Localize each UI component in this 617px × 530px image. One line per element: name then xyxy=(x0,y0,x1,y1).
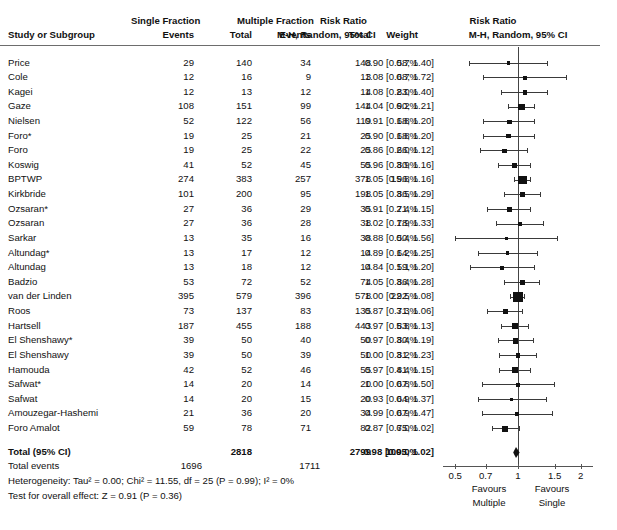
plot-header-title: Risk Ratio xyxy=(470,16,517,26)
study-label: Foro Amalot xyxy=(8,423,60,433)
confidence-interval-cap-left xyxy=(496,221,497,226)
study-label: Ozsaran* xyxy=(8,204,48,214)
risk-ratio-value: 0.97 [0.81, 1.15] xyxy=(315,365,434,375)
events-single-value: 19 xyxy=(134,145,194,155)
events-multiple-value: 16 xyxy=(251,233,311,243)
x-axis-tick xyxy=(486,464,487,469)
risk-ratio-value: 1.00 [0.92, 1.08] xyxy=(315,291,434,301)
confidence-interval-cap-left xyxy=(470,265,471,270)
total-single-value: 25 xyxy=(192,145,252,155)
confidence-interval-cap-right xyxy=(540,192,541,197)
events-single-value: 19 xyxy=(134,131,194,141)
study-label: El Shenshawy* xyxy=(8,335,73,345)
events-multiple-value: 14 xyxy=(251,379,311,389)
summary-diamond xyxy=(496,446,536,459)
confidence-interval-cap-right xyxy=(539,280,540,285)
x-axis-tick xyxy=(455,464,456,469)
effect-estimate-marker xyxy=(502,149,506,153)
events-multiple-value: 9 xyxy=(251,72,311,82)
confidence-interval-cap-left xyxy=(487,207,488,212)
total-single-value: 36 xyxy=(192,204,252,214)
risk-ratio-value: 1.02 [0.78, 1.33] xyxy=(315,218,434,228)
x-axis-tick xyxy=(581,464,582,469)
total-single-value: 18 xyxy=(192,262,252,272)
total-single-value: 35 xyxy=(192,233,252,243)
effect-estimate-marker xyxy=(523,90,527,94)
events-single-value: 13 xyxy=(134,248,194,258)
header-group-single: Single Fraction xyxy=(131,16,200,26)
confidence-interval-cap-left xyxy=(499,368,500,373)
confidence-interval-cap-right xyxy=(528,324,529,329)
study-label: Cole xyxy=(8,72,28,82)
risk-ratio-value: 0.99 [0.67, 1.47] xyxy=(315,408,434,418)
events-single-value: 29 xyxy=(134,58,194,68)
confidence-interval-cap-left xyxy=(482,411,483,416)
total-single-value: 52 xyxy=(192,365,252,375)
events-multiple-value: 257 xyxy=(251,174,311,184)
risk-ratio-value: 0.87 [0.71, 1.06] xyxy=(315,306,434,316)
study-label: Roos xyxy=(8,306,30,316)
favours-single-line1: Favours xyxy=(535,484,570,494)
favours-multiple-line1: Favours xyxy=(472,484,507,494)
events-multiple-value: 34 xyxy=(251,58,311,68)
confidence-interval-cap-left xyxy=(483,134,484,139)
effect-estimate-marker xyxy=(507,120,511,124)
totals-label: Total (95% CI) xyxy=(8,447,71,457)
risk-ratio-value: 1.05 [0.86, 1.28] xyxy=(315,277,434,287)
x-axis-tick-label: 1 xyxy=(515,471,520,481)
events-multiple-value: 20 xyxy=(251,408,311,418)
forest-plot-figure: Study or SubgroupSingle FractionMultiple… xyxy=(0,0,617,530)
total-single-value: 50 xyxy=(192,335,252,345)
total-events-label: Total events xyxy=(8,461,59,471)
risk-ratio-value: 0.91 [0.68, 1.20] xyxy=(315,116,434,126)
confidence-interval-cap-left xyxy=(510,294,511,299)
x-axis-tick-label: 1.5 xyxy=(548,471,561,481)
confidence-interval-cap-right xyxy=(554,382,555,387)
study-label: Foro xyxy=(8,145,28,155)
events-multiple-value: 28 xyxy=(251,218,311,228)
events-multiple-value: 396 xyxy=(251,291,311,301)
confidence-interval-cap-right xyxy=(534,104,535,109)
confidence-interval-cap-left xyxy=(480,148,481,153)
risk-ratio-value: 1.00 [0.67, 1.50] xyxy=(315,379,434,389)
total-single-value: 137 xyxy=(192,306,252,316)
header-group-multiple: Multiple Fraction xyxy=(237,16,314,26)
events-single-value: 59 xyxy=(134,423,194,433)
study-label: Sarkar xyxy=(8,233,36,243)
effect-estimate-marker xyxy=(512,323,518,329)
events-single-value: 12 xyxy=(134,87,194,97)
risk-ratio-value: 0.84 [0.59, 1.20] xyxy=(315,262,434,272)
effect-estimate-marker xyxy=(506,134,510,138)
confidence-interval-cap-right xyxy=(530,163,531,168)
confidence-interval-cap-left xyxy=(469,61,470,66)
confidence-interval-cap-right xyxy=(547,90,548,95)
confidence-interval-cap-right xyxy=(524,294,525,299)
total-single-value: 50 xyxy=(192,350,252,360)
risk-ratio-value: 0.97 [0.80, 1.19] xyxy=(315,335,434,345)
total-single-value: 140 xyxy=(192,58,252,68)
effect-estimate-marker xyxy=(518,104,524,110)
totals-total-single: 2818 xyxy=(192,447,252,457)
total-single-value: 36 xyxy=(192,408,252,418)
study-label: Kirkbride xyxy=(8,189,46,199)
confidence-interval-cap-right xyxy=(522,309,523,314)
x-axis-tick xyxy=(518,464,519,469)
risk-ratio-value: 1.05 [0.86, 1.29] xyxy=(315,189,434,199)
confidence-interval-cap-right xyxy=(534,119,535,124)
risk-ratio-value: 0.87 [0.75, 1.02] xyxy=(315,423,434,433)
events-multiple-value: 71 xyxy=(251,423,311,433)
events-single-value: 39 xyxy=(134,350,194,360)
events-multiple-value: 29 xyxy=(251,204,311,214)
study-label: Ozsaran xyxy=(8,218,44,228)
risk-ratio-value: 0.90 [0.58, 1.40] xyxy=(315,58,434,68)
events-multiple-value: 188 xyxy=(251,321,311,331)
total-single-value: 36 xyxy=(192,218,252,228)
effect-estimate-marker xyxy=(507,207,512,212)
events-single-value: 101 xyxy=(134,189,194,199)
risk-ratio-value: 0.90 [0.68, 1.20] xyxy=(315,131,434,141)
risk-ratio-value: 0.93 [0.64, 1.37] xyxy=(315,394,434,404)
total-single-value: 20 xyxy=(192,379,252,389)
effect-estimate-marker xyxy=(502,426,508,432)
x-axis-tick-label: 2 xyxy=(578,471,583,481)
study-label: Foro* xyxy=(8,131,31,141)
